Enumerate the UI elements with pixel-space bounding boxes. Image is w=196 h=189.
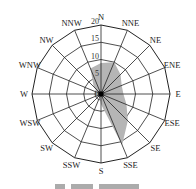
direction-label-wnw: WNW	[19, 60, 41, 70]
direction-label-nw: NW	[39, 35, 53, 45]
direction-label-sw: SW	[40, 143, 53, 153]
ring-label-10: 10	[91, 52, 99, 61]
direction-label-s: S	[99, 166, 104, 176]
direction-label-ene: ENE	[164, 60, 181, 70]
wind-rose-chart: NNNENEENEEESESESSESSSWSWWSWWWNWNWNNW 051…	[0, 0, 196, 189]
direction-label-nnw: NNW	[61, 18, 81, 28]
direction-label-w: W	[20, 89, 28, 99]
direction-label-ese: ESE	[165, 118, 180, 128]
direction-label-ssw: SSW	[63, 160, 80, 170]
ring-label-0: 0	[95, 90, 99, 99]
spoke-sw	[52, 94, 101, 143]
direction-label-nne: NNE	[122, 18, 139, 28]
direction-label-e: E	[175, 89, 180, 99]
ring-label-5: 5	[95, 69, 99, 78]
direction-label-ne: NE	[150, 35, 161, 45]
direction-label-sse: SSE	[123, 160, 138, 170]
ring-label-15: 15	[91, 34, 99, 43]
center-marker	[99, 92, 104, 97]
direction-label-wsw: WSW	[19, 118, 40, 128]
ring-label-20: 20	[91, 17, 99, 26]
figure-caption-clipped	[55, 184, 145, 189]
direction-label-se: SE	[150, 143, 160, 153]
